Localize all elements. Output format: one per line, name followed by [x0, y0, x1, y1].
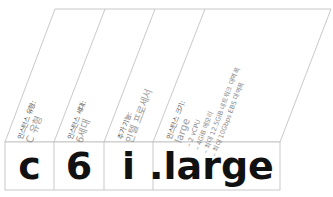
cell-size: .large — [143, 142, 280, 190]
cell-family: c — [5, 142, 54, 190]
cell-generation: 6 — [54, 142, 104, 190]
top-face — [5, 9, 331, 142]
